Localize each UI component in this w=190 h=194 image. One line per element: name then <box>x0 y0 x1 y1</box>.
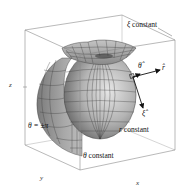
xi-symbol: ξ <box>127 20 130 29</box>
y-axis-label: y <box>40 175 43 182</box>
theta-hat-label: θ̂ <box>138 62 142 70</box>
r-hat-arrow <box>133 70 160 77</box>
xi-hat-label: ξ̂ <box>142 110 145 118</box>
theta-constant-text: constant <box>89 151 114 160</box>
theta-constant-label: θ constant <box>83 152 114 160</box>
r-hat-label: r̂ <box>162 64 165 72</box>
coordinate-surfaces-figure <box>0 0 190 194</box>
x-axis-label: x <box>136 180 139 187</box>
xi-constant-text: constant <box>132 20 157 29</box>
z-axis-label: z <box>9 82 12 89</box>
diagram-canvas: ξ constant θ̂ r̂ ξ̂ r constant θ = ±π θ … <box>0 0 190 194</box>
unit-vectors <box>133 70 160 108</box>
r-constant-text: constant <box>124 125 149 134</box>
theta-pm-pi-label: θ = ±π <box>28 122 48 130</box>
xi-constant-label: ξ constant <box>127 21 157 29</box>
r-symbol: r <box>119 125 122 134</box>
r-constant-label: r constant <box>119 126 149 134</box>
theta-symbol: θ <box>83 151 87 160</box>
